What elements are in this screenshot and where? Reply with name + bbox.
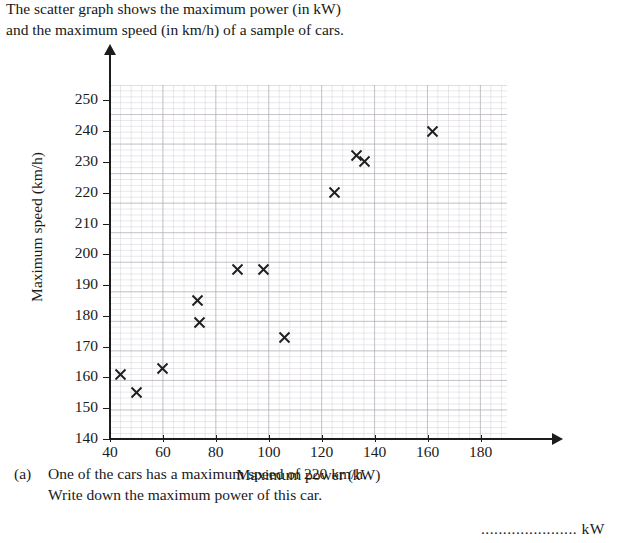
y-axis-line	[109, 54, 111, 440]
y-tick-mark	[103, 408, 111, 409]
x-tick-label: 140	[345, 443, 405, 461]
data-point-marker	[358, 155, 371, 168]
question-line-2: Write down the maximum power of this car…	[48, 484, 367, 505]
x-tick-label: 180	[451, 443, 511, 461]
x-axis-arrow-icon	[552, 433, 563, 445]
x-tick-mark	[322, 435, 323, 442]
y-tick-mark	[103, 316, 111, 317]
y-tick-label: 220	[54, 183, 98, 201]
x-tick-label: 60	[133, 443, 193, 461]
x-tick-mark	[481, 435, 482, 442]
x-axis-line	[110, 438, 554, 440]
question-text: One of the cars has a maximum speed of 2…	[48, 463, 367, 505]
y-tick-label: 200	[54, 244, 98, 262]
x-tick-label: 100	[239, 443, 299, 461]
data-point-marker	[191, 294, 204, 307]
y-tick-mark	[103, 439, 111, 440]
y-axis-title: Maximum speed (km/h)	[28, 127, 46, 327]
plot-area	[110, 85, 507, 439]
y-tick-label: 230	[54, 152, 98, 170]
data-point-marker	[278, 331, 291, 344]
x-tick-mark	[375, 435, 376, 442]
data-point-marker	[130, 386, 143, 399]
y-tick-mark	[103, 193, 111, 194]
y-tick-label: 180	[54, 306, 98, 324]
y-tick-label: 190	[54, 275, 98, 293]
x-tick-mark	[269, 435, 270, 442]
y-tick-mark	[103, 162, 111, 163]
data-point-marker	[231, 263, 244, 276]
x-tick-mark	[163, 435, 164, 442]
y-tick-label: 150	[54, 398, 98, 416]
data-point-marker	[257, 263, 270, 276]
data-point-marker	[156, 362, 169, 375]
x-tick-mark	[428, 435, 429, 442]
y-tick-label: 140	[54, 429, 98, 447]
x-tick-label: 160	[398, 443, 458, 461]
intro-line-2: and the maximum speed (in km/h) of a sam…	[6, 19, 606, 40]
y-tick-mark	[103, 285, 111, 286]
y-tick-mark	[103, 131, 111, 132]
x-tick-label: 80	[186, 443, 246, 461]
data-point-marker	[426, 125, 439, 138]
question-marker: (a)	[14, 463, 31, 484]
question-line-1: One of the cars has a maximum speed of 2…	[48, 463, 367, 484]
answer-field[interactable]: ...................... kW	[481, 518, 605, 539]
y-tick-label: 170	[54, 337, 98, 355]
intro-line-1: The scatter graph shows the maximum powe…	[6, 0, 606, 19]
y-tick-mark	[103, 254, 111, 255]
scatter-chart: Maximum speed (km/h) Maximum power (kW) …	[0, 40, 617, 455]
y-tick-mark	[103, 377, 111, 378]
y-tick-mark	[103, 347, 111, 348]
answer-dots: ......................	[481, 520, 577, 537]
exam-question-page: The scatter graph shows the maximum powe…	[0, 0, 617, 543]
y-tick-label: 240	[54, 121, 98, 139]
data-point-marker	[328, 186, 341, 199]
x-tick-mark	[216, 435, 217, 442]
data-point-marker	[114, 368, 127, 381]
answer-unit: kW	[582, 520, 605, 537]
data-point-marker	[193, 316, 206, 329]
y-tick-mark	[103, 224, 111, 225]
y-tick-label: 250	[54, 90, 98, 108]
y-axis-arrow-icon	[104, 44, 116, 55]
y-tick-label: 160	[54, 367, 98, 385]
y-tick-label: 210	[54, 214, 98, 232]
marks-allocation: [1]	[583, 539, 603, 543]
x-tick-label: 120	[292, 443, 352, 461]
intro-text: The scatter graph shows the maximum powe…	[6, 0, 606, 40]
y-tick-mark	[103, 100, 111, 101]
